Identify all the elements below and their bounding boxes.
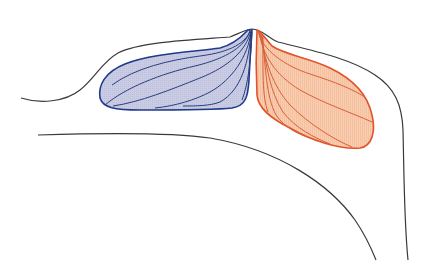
left-lobe: [100, 30, 252, 110]
left-lobe-shape: [100, 30, 252, 110]
right-lobe-shape: [256, 30, 373, 148]
diagram-canvas: [0, 0, 433, 280]
inner-contour: [38, 133, 376, 260]
diagram-svg: [0, 0, 433, 280]
right-lobe: [256, 30, 373, 148]
